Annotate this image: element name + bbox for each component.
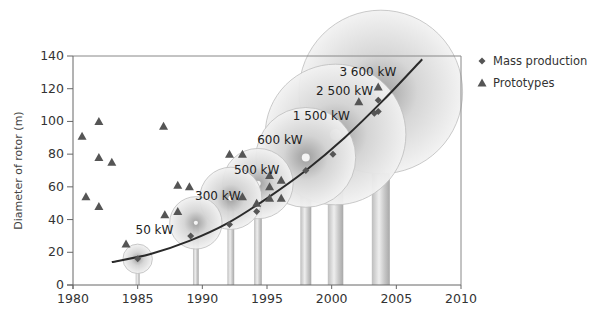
y-tick-label: 80 xyxy=(48,146,64,161)
x-tick-label: 2010 xyxy=(445,291,477,306)
legend-label-prototypes: Prototypes xyxy=(493,76,554,90)
y-tick-label: 40 xyxy=(48,212,64,227)
y-tick-label: 100 xyxy=(40,113,64,128)
chart: 1980198519901995200020052010 02040608010… xyxy=(0,0,599,320)
prototype-point xyxy=(185,182,194,190)
prototype-point xyxy=(122,240,131,248)
rotor-power-label: 1 500 kW xyxy=(293,109,350,123)
triangle-icon xyxy=(478,79,487,87)
prototype-point xyxy=(94,117,103,125)
turbine-hub xyxy=(194,221,198,225)
y-tick-label: 60 xyxy=(48,179,64,194)
legend: Mass production Prototypes xyxy=(478,54,588,90)
x-tick-label: 2000 xyxy=(316,291,348,306)
rotor-power-label: 600 kW xyxy=(257,133,303,147)
prototype-point xyxy=(159,122,168,130)
prototype-point xyxy=(94,153,103,161)
legend-label-mass-production: Mass production xyxy=(493,54,587,68)
legend-item-prototypes: Prototypes xyxy=(478,76,555,90)
prototype-point xyxy=(81,192,90,200)
x-tick-label: 2005 xyxy=(380,291,412,306)
y-tick-label: 0 xyxy=(56,277,64,292)
y-tick-label: 140 xyxy=(40,48,64,63)
y-tick-label: 20 xyxy=(48,244,64,259)
diamond-icon xyxy=(479,58,486,65)
y-tick-label: 120 xyxy=(40,81,64,96)
x-tick-label: 1980 xyxy=(57,291,89,306)
prototype-point xyxy=(78,132,87,140)
legend-item-mass-production: Mass production xyxy=(479,54,588,68)
rotor-power-label: 50 kW xyxy=(136,223,174,237)
rotor-power-label: 300 kW xyxy=(195,189,241,203)
rotor-power-label: 2 500 kW xyxy=(316,84,373,98)
x-tick-label: 1985 xyxy=(122,291,154,306)
x-ticks: 1980198519901995200020052010 xyxy=(57,285,477,306)
prototype-point xyxy=(107,158,116,166)
turbine-hub xyxy=(302,153,310,161)
prototype-point xyxy=(225,150,234,158)
prototype-point xyxy=(160,210,169,218)
rotor-power-label: 500 kW xyxy=(234,163,280,177)
x-tick-label: 1990 xyxy=(186,291,218,306)
x-tick-label: 1995 xyxy=(251,291,283,306)
y-ticks: 020406080100120140 xyxy=(40,48,73,292)
rotor-power-label: 3 600 kW xyxy=(339,65,396,79)
prototype-point xyxy=(94,202,103,210)
y-axis-title: Diameter of rotor (m) xyxy=(12,111,25,229)
prototype-point xyxy=(173,181,182,189)
